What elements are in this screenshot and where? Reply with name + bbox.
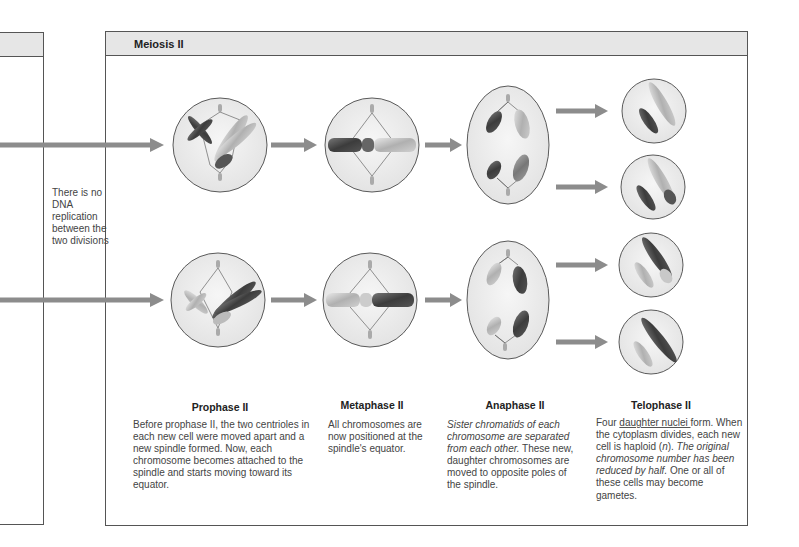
telophase-ii-cell-2 bbox=[621, 155, 685, 219]
telophase-text-1: Four bbox=[596, 417, 619, 428]
stage-title-metaphase-ii: Metaphase II bbox=[312, 399, 432, 411]
telophase-text-3: ). bbox=[668, 441, 677, 452]
telophase-underlined-text: daughter nuclei bbox=[619, 417, 690, 428]
anaphase-ii-cell-top bbox=[467, 86, 549, 204]
stage-title-prophase-ii: Prophase II bbox=[160, 401, 280, 413]
telophase-ii-cell-3 bbox=[619, 233, 683, 297]
metaphase-ii-cell-bottom bbox=[323, 253, 417, 347]
telophase-ii-cell-4 bbox=[619, 310, 683, 374]
stage-title-telophase-ii: Telophase II bbox=[601, 399, 721, 411]
anaphase-ii-cell-bottom bbox=[467, 241, 549, 359]
stage-title-anaphase-ii: Anaphase II bbox=[455, 399, 575, 411]
prophase-ii-cell-top bbox=[173, 98, 267, 192]
description-metaphase-ii: All chromosomes are now positioned at th… bbox=[328, 419, 428, 455]
telophase-ii-cell-1 bbox=[622, 79, 686, 143]
description-telophase-ii: Four daughter nuclei form. When the cyto… bbox=[596, 417, 746, 502]
metaphase-ii-cell-top bbox=[325, 98, 419, 192]
description-prophase-ii: Before prophase II, the two centrioles i… bbox=[133, 419, 318, 492]
description-anaphase-ii: Sister chromatids of each chromosome are… bbox=[447, 419, 577, 492]
prophase-ii-cell-bottom bbox=[171, 253, 265, 347]
